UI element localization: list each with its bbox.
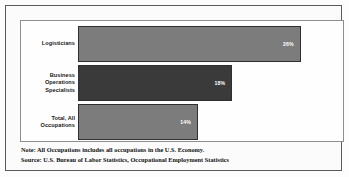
category-label-line: Logisticians [42,40,75,47]
bar-row: Logisticians 26% [21,26,343,62]
bar-value-label: 18% [215,80,226,86]
figure-outer-frame: Logisticians 26% Business Operations Spe… [5,5,342,171]
source-text: Source: U.S. Bureau of Labor Statistics,… [21,155,331,165]
bar-value-label: 14% [180,119,191,125]
bar-total-all-occupations[interactable]: 14% [78,104,198,140]
chart-plot-area: Logisticians 26% Business Operations Spe… [20,20,344,142]
category-label-line: Occupations [41,122,75,129]
category-label-business-operations-specialists: Business Operations Specialists [23,65,75,101]
category-label-line: Operations [45,79,75,86]
bar-value-label: 26% [283,41,294,47]
chart-figure: Logisticians 26% Business Operations Spe… [0,0,349,177]
bar-row: Total, All Occupations 14% [21,104,343,140]
category-label-line: Total, All [41,115,75,122]
note-text: Note: All Occupations includes all occup… [21,145,331,155]
chart-footnotes: Note: All Occupations includes all occup… [21,145,331,165]
bar-logisticians[interactable]: 26% [78,26,301,62]
category-label-total-all-occupations: Total, All Occupations [23,104,75,140]
category-label-line: Specialists [45,87,75,94]
bar-business-operations-specialists[interactable]: 18% [78,65,232,101]
category-label-line: Business [45,72,75,79]
bar-row: Business Operations Specialists 18% [21,65,343,101]
category-label-logisticians: Logisticians [23,26,75,62]
